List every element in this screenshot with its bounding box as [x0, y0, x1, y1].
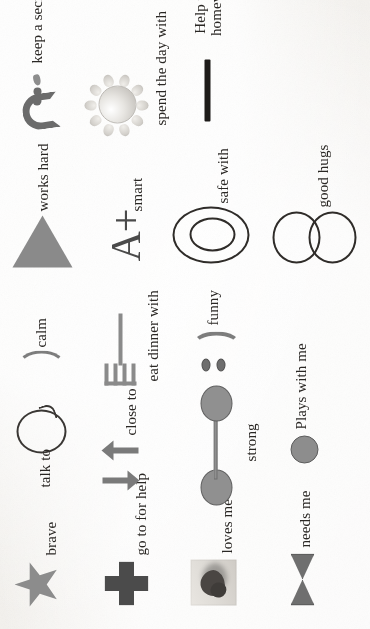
item-label-talk-to: talk to	[36, 448, 53, 487]
two-arrows-icon	[100, 441, 140, 489]
item-label-strong: strong	[242, 423, 259, 461]
item-loves-me[interactable]: loves me	[190, 559, 236, 605]
smiley-face-icon	[190, 329, 234, 373]
bowtie-right-wing	[290, 553, 314, 579]
item-keep-a-secret[interactable]: keep a secret	[22, 69, 48, 129]
item-label-spend-the-day-with: spend the day with	[152, 10, 169, 125]
triangle-icon	[12, 215, 72, 267]
star-icon	[14, 561, 60, 607]
circle-bottom	[308, 211, 356, 263]
item-good-hugs[interactable]: good hugs	[272, 211, 356, 263]
item-label-eat-dinner-with: eat dinner with	[144, 290, 161, 381]
fork-tine-4	[131, 363, 135, 385]
smiley-eye-top	[201, 358, 210, 371]
smiley-mouth	[191, 331, 241, 355]
item-eat-dinner-with[interactable]: eat dinner with	[100, 313, 140, 385]
dumbbell-weight-right	[200, 385, 232, 421]
fork-tine-3	[122, 363, 126, 385]
item-close-to[interactable]: close to	[100, 441, 140, 489]
bowtie-left-wing	[290, 579, 314, 605]
shush-lips-icon	[22, 69, 48, 129]
item-label-works-hard: works hard	[34, 143, 51, 211]
two-circles-icon	[272, 211, 356, 263]
item-strong[interactable]: strong	[192, 385, 238, 505]
sun-ray	[87, 113, 103, 128]
item-spend-the-day-with[interactable]: spend the day with	[84, 73, 148, 137]
ball-icon	[290, 435, 318, 463]
arrow-down-icon	[102, 477, 128, 483]
speech-bubble-tail	[38, 402, 57, 422]
fork-tine-1	[104, 363, 108, 385]
sun-disc	[98, 85, 136, 123]
fork-icon	[100, 313, 140, 385]
smiley-eye-bottom	[216, 358, 225, 371]
help-line-1: Help with	[191, 0, 207, 33]
item-label-brave: brave	[42, 521, 59, 555]
item-label-loves-me: loves me	[218, 498, 235, 553]
smile-curve-icon	[16, 350, 66, 379]
heart-photo-icon	[190, 559, 236, 605]
sun-ray	[117, 122, 130, 137]
concentric-ovals-icon	[172, 205, 250, 263]
shush-dot-3	[32, 73, 41, 85]
item-talk-to[interactable]: talk to	[16, 443, 66, 487]
item-label-close-to: close to	[122, 388, 139, 435]
item-label-calm: calm	[32, 317, 49, 347]
item-label-smart: smart	[128, 177, 145, 211]
shush-dot-1	[32, 96, 41, 105]
item-label-good-hugs: good hugs	[314, 144, 331, 207]
item-funny[interactable]: funny	[190, 329, 234, 373]
item-label-safe-with: safe with	[214, 148, 231, 203]
plus-cross-icon	[104, 561, 148, 605]
item-label-keep-a-secret: keep a secret	[28, 0, 45, 63]
fork-tine-2	[113, 363, 117, 385]
item-needs-me[interactable]: needs me	[286, 553, 310, 605]
arrow-up-icon	[112, 447, 138, 453]
a-plus-grade-icon: A+	[104, 209, 146, 261]
oval-inner	[189, 217, 235, 251]
sun-ray	[101, 122, 114, 137]
worksheet-sheet: brave talk to calm works hard keep a sec…	[0, 0, 370, 629]
shush-dot-2	[33, 87, 41, 95]
sun-ray	[136, 100, 148, 110]
item-label-help-with-homework: Help with homework	[192, 0, 223, 49]
horizontal-rule-icon	[204, 59, 210, 121]
bowtie-icon	[290, 553, 314, 605]
item-safe-with[interactable]: safe with	[172, 205, 250, 263]
speech-bubble-icon	[16, 409, 66, 453]
dumbbell-icon	[192, 385, 238, 505]
item-label-plays-with-me: Plays with me	[292, 343, 309, 429]
item-label-funny: funny	[204, 290, 221, 326]
sun-icon	[84, 73, 148, 137]
help-line-2: homework	[207, 0, 223, 35]
sun-ray	[84, 100, 96, 110]
fork-handle	[118, 313, 122, 365]
item-label-needs-me: needs me	[296, 490, 313, 547]
